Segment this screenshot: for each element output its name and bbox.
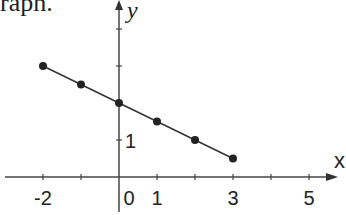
x-axis-label: x — [334, 148, 345, 173]
x-axis — [5, 173, 338, 181]
data-point — [77, 81, 85, 89]
data-point — [39, 62, 47, 70]
x-tick-label: 0 — [123, 187, 134, 209]
chart-svg: x y -20135 1 — [0, 0, 346, 215]
data-point — [191, 136, 199, 144]
x-tick-label: 5 — [303, 187, 314, 209]
x-tick-label: -2 — [34, 187, 52, 209]
data-line — [43, 66, 233, 159]
x-tick-label: 1 — [151, 187, 162, 209]
data-point — [229, 155, 237, 163]
chart-figure: raph. x y -20135 1 — [0, 0, 346, 215]
data-point — [153, 118, 161, 126]
y-axis-label: y — [125, 0, 138, 23]
y-tick-labels: 1 — [125, 130, 136, 152]
y-tick-label: 1 — [125, 130, 136, 152]
x-tick-labels: -20135 — [34, 187, 314, 209]
data-point — [115, 99, 123, 107]
x-tick-label: 3 — [227, 187, 238, 209]
